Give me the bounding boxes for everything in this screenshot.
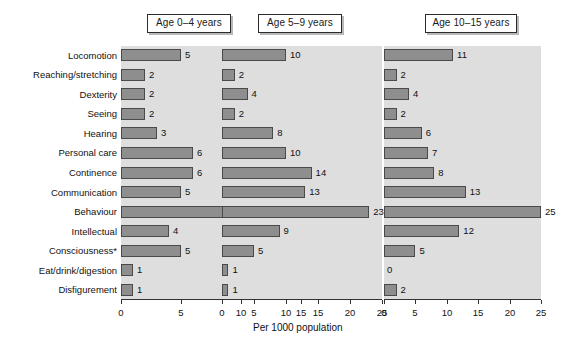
x-axis-line-3: [384, 299, 541, 300]
x-tick-label: 25: [529, 308, 553, 318]
bar-value-label: 8: [438, 167, 443, 179]
bar-value-label: 4: [413, 88, 418, 100]
category-axis-labels: LocomotionReaching/stretchingDexteritySe…: [0, 0, 117, 343]
panel-title-2: Age 5–9 years: [258, 14, 342, 33]
bar: [384, 69, 397, 81]
x-tick-label: 10: [274, 308, 298, 318]
x-tick: [510, 300, 511, 304]
bar-value-label: 1: [232, 264, 237, 276]
bar: [222, 245, 254, 257]
panel-title-3: Age 10–15 years: [425, 14, 517, 33]
bar-value-label: 5: [185, 245, 190, 257]
bar: [222, 108, 235, 120]
x-tick: [301, 300, 302, 304]
bar-value-label: 4: [173, 225, 178, 237]
bar: [384, 167, 434, 179]
bar: [121, 69, 145, 81]
bar-value-label: 6: [197, 147, 202, 159]
x-tick-label: 0: [372, 308, 396, 318]
bar-value-label: 1: [137, 284, 142, 296]
bar: [121, 186, 181, 198]
category-label: Hearing: [84, 128, 117, 139]
bar-value-label: 9: [284, 225, 289, 237]
bar: [222, 206, 369, 218]
bar: [384, 127, 422, 139]
x-tick-label: 5: [242, 308, 266, 318]
bar-value-label: 10: [290, 147, 301, 159]
bar: [222, 49, 286, 61]
bar-value-label: 4: [252, 88, 257, 100]
bar-value-label: 1: [232, 284, 237, 296]
bar: [222, 186, 305, 198]
x-tick: [384, 300, 385, 304]
bar-value-label: 23: [373, 206, 384, 218]
bar: [121, 167, 193, 179]
bar-value-label: 5: [258, 245, 263, 257]
category-label: Seeing: [87, 108, 117, 119]
x-tick-label: 10: [435, 308, 459, 318]
bar-value-label: 5: [419, 245, 424, 257]
panel-title-1: Age 0–4 years: [147, 14, 231, 33]
bar: [222, 88, 248, 100]
x-tick: [447, 300, 448, 304]
bar: [121, 108, 145, 120]
bar-value-label: 25: [545, 206, 556, 218]
x-tick: [318, 300, 319, 304]
x-tick-label: 0: [109, 308, 133, 318]
bar: [121, 284, 133, 296]
x-tick: [286, 300, 287, 304]
category-label: Consciousness*: [49, 245, 117, 256]
chart-figure: Age 0–4 yearsAge 5–9 yearsAge 10–15 year…: [0, 0, 569, 343]
category-label: Behaviour: [74, 206, 117, 217]
bar-value-label: 8: [277, 127, 282, 139]
bar-value-label: 2: [149, 108, 154, 120]
category-label: Continence: [69, 167, 117, 178]
bar-value-label: 6: [197, 167, 202, 179]
bar: [384, 108, 397, 120]
bar: [121, 147, 193, 159]
bar: [222, 147, 286, 159]
bar-value-label: 3: [161, 127, 166, 139]
category-label: Dexterity: [80, 89, 117, 100]
bar: [384, 284, 397, 296]
x-tick: [382, 300, 383, 304]
bar: [222, 167, 312, 179]
bar-value-label: 2: [149, 69, 154, 81]
x-axis-line-2: [222, 299, 382, 300]
bar-value-label: 1: [137, 264, 142, 276]
x-tick-label: 15: [306, 308, 330, 318]
bar: [121, 49, 181, 61]
bar: [121, 225, 169, 237]
x-tick: [350, 300, 351, 304]
category-label: Communication: [51, 187, 117, 198]
bar: [222, 284, 228, 296]
x-tick-label: 5: [403, 308, 427, 318]
bar-value-label: 2: [401, 284, 406, 296]
bar: [384, 225, 459, 237]
bar-value-label: 5: [185, 186, 190, 198]
x-tick: [222, 300, 223, 304]
category-label: Disfigurement: [58, 284, 117, 295]
x-axis-caption: Per 1000 population: [253, 322, 343, 334]
bar: [384, 206, 541, 218]
x-tick-label: 20: [498, 308, 522, 318]
x-tick: [478, 300, 479, 304]
x-tick: [541, 300, 542, 304]
x-tick-label: 5: [169, 308, 193, 318]
bar-value-label: 13: [309, 186, 320, 198]
bar-value-label: 7: [432, 147, 437, 159]
bar-value-label: 2: [401, 69, 406, 81]
category-label: Personal care: [58, 147, 117, 158]
bar-value-label: 0: [387, 264, 392, 276]
category-label: Intellectual: [72, 226, 117, 237]
bar: [222, 127, 273, 139]
x-tick: [121, 300, 122, 304]
bar: [384, 147, 428, 159]
bar: [222, 225, 280, 237]
bar: [384, 245, 415, 257]
bar: [384, 186, 466, 198]
plot-panel-3: 051015202511242678132512502: [384, 46, 541, 300]
bar-value-label: 2: [239, 69, 244, 81]
bar: [384, 88, 409, 100]
plot-panel-2: 0510152025102428101413239511: [222, 46, 382, 300]
